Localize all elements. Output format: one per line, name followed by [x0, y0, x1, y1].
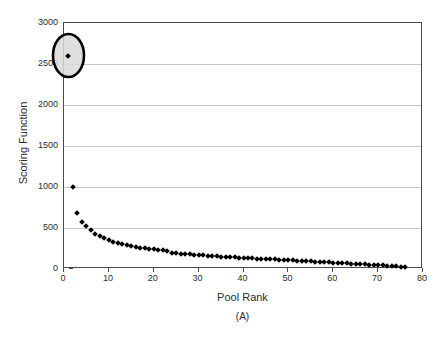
- gridline: [64, 105, 421, 106]
- x-tick-label: 80: [402, 274, 442, 283]
- plot-area: [63, 22, 422, 268]
- x-tick-mark: [332, 268, 333, 272]
- x-tick-label: 40: [223, 274, 263, 283]
- chart-figure: Scoring Function 05001000150020002500300…: [0, 0, 447, 339]
- data-point: [75, 210, 81, 216]
- x-tick-label: 30: [178, 274, 218, 283]
- highlighted-data-point: [66, 53, 72, 59]
- x-tick-label: 60: [312, 274, 352, 283]
- gridline: [64, 146, 421, 147]
- panel-caption: (A): [63, 311, 422, 322]
- x-tick-mark: [287, 268, 288, 272]
- x-axis-title: Pool Rank: [63, 291, 422, 303]
- x-tick-label: 20: [133, 274, 173, 283]
- x-tick-mark: [108, 268, 109, 272]
- gridline: [64, 187, 421, 188]
- x-tick-label: 70: [357, 274, 397, 283]
- x-tick-mark: [422, 268, 423, 272]
- x-tick-mark: [377, 268, 378, 272]
- x-tick-mark: [243, 268, 244, 272]
- x-tick-mark: [63, 268, 64, 272]
- x-tick-label: 10: [88, 274, 128, 283]
- x-tick-label: 0: [43, 274, 83, 283]
- x-tick-mark: [153, 268, 154, 272]
- x-tick-mark: [198, 268, 199, 272]
- x-tick-label: 50: [267, 274, 307, 283]
- gridline: [64, 228, 421, 229]
- data-point: [70, 184, 76, 190]
- gridline: [64, 64, 421, 65]
